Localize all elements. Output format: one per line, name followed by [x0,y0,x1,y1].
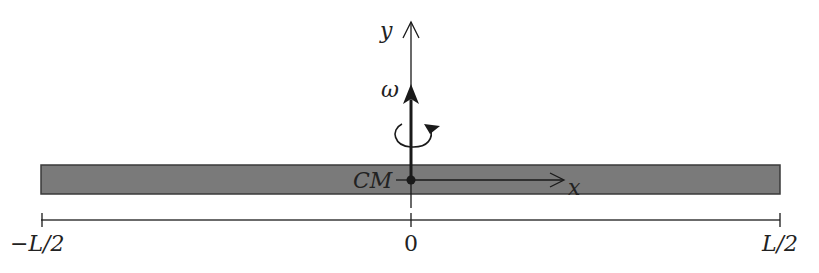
cm-label: CM [353,168,393,193]
x-axis-label: x [568,175,581,200]
rod-rotation-diagram: y ω CM x −L/2 0 L/2 [0,0,819,273]
center-of-mass-dot [407,176,416,185]
right-end-label: L/2 [761,231,798,256]
omega-label: ω [381,77,399,102]
left-end-label: −L/2 [10,231,64,256]
y-axis-label: y [379,18,393,43]
center-label: 0 [404,231,418,256]
rotation-arrow-icon [395,124,431,147]
